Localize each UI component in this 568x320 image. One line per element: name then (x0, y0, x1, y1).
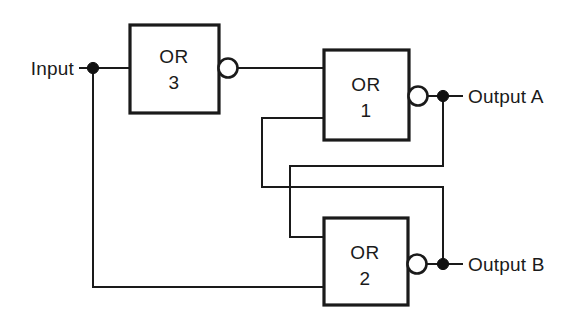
port-label-layer: Input Output A Output B (31, 58, 545, 275)
gate-or1-inverting-bubble (409, 87, 428, 106)
gate-or1-label-line2: 1 (360, 100, 371, 121)
gate-or2-inverting-bubble (408, 255, 427, 274)
output-a-junction-dot (437, 90, 448, 101)
output-b-label: Output B (468, 254, 545, 275)
gate-or2[interactable]: OR 2 (324, 218, 427, 305)
output-a-label: Output A (468, 86, 544, 107)
circuit-diagram-canvas: OR 3 OR 1 OR 2 Input Output A Output B (0, 0, 568, 320)
gate-or2-label-line1: OR (350, 242, 380, 263)
gate-or3-inverting-bubble (219, 59, 238, 78)
gate-or1-body (324, 50, 409, 140)
gate-or1-label-line1: OR (351, 74, 381, 95)
gate-or3-body (130, 25, 219, 113)
gate-or3-label-line2: 3 (168, 72, 179, 93)
gate-or3[interactable]: OR 3 (130, 25, 238, 113)
gate-or3-label-line1: OR (159, 46, 189, 67)
input-label: Input (31, 58, 75, 79)
output-b-junction-dot (437, 258, 448, 269)
gate-or2-label-line2: 2 (359, 268, 370, 289)
gate-or1[interactable]: OR 1 (324, 50, 428, 140)
input-junction-dot (87, 62, 98, 73)
